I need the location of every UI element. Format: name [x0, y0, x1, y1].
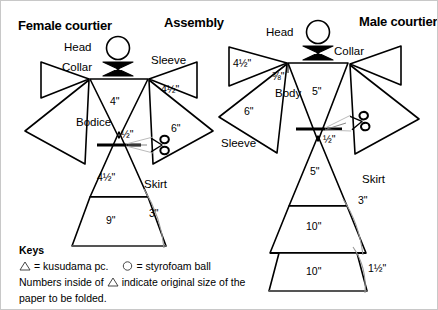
title-assembly: Assembly — [164, 16, 224, 29]
triangle-outline-icon — [107, 277, 119, 287]
male-sleeve-label: Sleeve — [221, 138, 256, 150]
title-male-courtier: Male courtier — [359, 15, 437, 28]
triangle-outline-icon — [19, 261, 31, 271]
male-head-circle — [307, 21, 330, 44]
female-skirt-upper-size: 4½" — [97, 172, 115, 183]
female-collar-label: Collar — [62, 62, 92, 74]
male-shoulder-size: ⅜" — [272, 71, 284, 82]
male-skirt-overlap-lower: 1½" — [368, 263, 386, 274]
female-sleeve-label: Sleeve — [151, 55, 186, 67]
title-female-courtier: Female courtier — [18, 19, 112, 32]
keys-line-2: Numbers inside of indicate original size… — [19, 276, 245, 288]
keys-line-1: = kusudama pc. = styrofoam ball — [19, 260, 245, 272]
female-bodice-triangle — [90, 79, 148, 138]
keys-line-3: paper to be folded. — [19, 292, 245, 304]
keys-heading: Keys — [19, 244, 245, 256]
male-skirt-top-size: 5" — [310, 166, 320, 177]
female-collar-bowtie — [103, 62, 133, 76]
female-sleeve-upper-size: 4½" — [161, 84, 179, 95]
male-skirt-bottom-size: 10" — [306, 266, 321, 277]
female-right-sleeve-lower — [149, 80, 213, 164]
female-waist-size: ½" — [121, 129, 133, 140]
male-head-label: Head — [266, 27, 294, 39]
keys-triangle-text: = kusudama pc. — [34, 260, 108, 272]
male-sleeve-lower-size: 6" — [244, 106, 254, 117]
female-skirt-upper-triangle — [90, 132, 148, 197]
female-bodice-label: Bodice — [76, 117, 111, 129]
female-skirt-overlap: 3" — [149, 208, 159, 219]
female-skirt-label: Skirt — [144, 179, 167, 191]
keys-block: Keys = kusudama pc. = styrofoam ball Num… — [19, 244, 245, 304]
female-skirt-lower-size: 9" — [106, 215, 116, 226]
male-body-label: Body — [275, 88, 301, 100]
male-skirt-label: Skirt — [362, 174, 385, 186]
female-bodice-size: 4" — [110, 96, 120, 107]
female-courtier-figure — [25, 37, 213, 249]
female-head-label: Head — [64, 42, 92, 54]
male-skirt-overlap-upper: 3" — [358, 195, 368, 206]
male-sleeve-upper-size: 4½" — [233, 58, 251, 69]
female-head-circle — [107, 37, 130, 60]
diagram-page: Female courtier Assembly Male courtier H… — [0, 0, 438, 310]
keys-circle-text: = styrofoam ball — [136, 260, 210, 272]
male-collar-label: Collar — [334, 46, 364, 58]
male-skirt-mid-size: 10" — [306, 221, 321, 232]
circle-outline-icon — [122, 261, 133, 271]
female-sleeve-lower-size: 6" — [171, 123, 181, 134]
keys-line2-pre: Numbers inside of — [19, 276, 104, 288]
keys-line2-post: indicate original size of the — [122, 276, 246, 288]
male-body-size: 5" — [312, 86, 322, 97]
male-waist-size: ½" — [323, 134, 335, 145]
male-collar-bowtie — [303, 46, 333, 60]
